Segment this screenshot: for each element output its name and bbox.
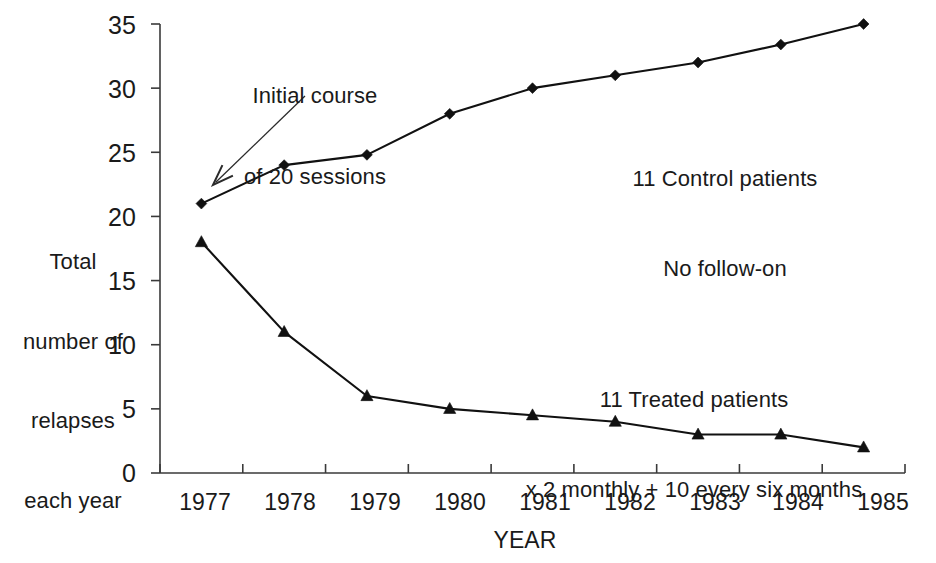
data-point-1982 (610, 70, 621, 81)
annotation-initial-course-line-2: of 20 sessions (200, 163, 430, 190)
series-label-treated-line-1: 11 Treated patients (494, 385, 894, 415)
y-tick-label-25: 25 (82, 139, 136, 168)
relapses-line-chart: 35 30 25 20 15 10 5 0 1977 1978 1979 198… (0, 0, 936, 563)
x-tick-label-1979: 1979 (330, 489, 420, 516)
series-label-control-line-1: 11 Control patients (600, 164, 850, 194)
y-axis-title: Total number of relapses each year (8, 196, 138, 563)
annotation-initial-course-line-1: Initial course (200, 82, 430, 109)
x-tick-label-1977: 1977 (160, 489, 250, 516)
data-point-1983 (693, 57, 704, 68)
y-axis-title-line-3: relapses (8, 408, 138, 435)
y-axis-ticks (151, 24, 160, 473)
y-tick-label-30: 30 (82, 75, 136, 104)
data-point-1980 (444, 108, 455, 119)
x-tick-label-1978: 1978 (245, 489, 335, 516)
y-tick-label-35: 35 (82, 11, 136, 40)
x-tick-label-1980: 1980 (415, 489, 505, 516)
y-axis-title-line-1: Total (8, 249, 138, 276)
data-point-1984 (775, 39, 786, 50)
series-label-treated: 11 Treated patients x 2 monthly + 10 eve… (494, 325, 894, 563)
data-point-1981 (527, 83, 538, 94)
y-axis-title-line-2: number of (8, 329, 138, 356)
y-axis-title-line-4: each year (8, 488, 138, 515)
data-point-1985 (858, 19, 869, 30)
annotation-initial-course: Initial course of 20 sessions (200, 28, 430, 244)
series-label-control: 11 Control patients No follow-on (600, 104, 850, 344)
data-point-1979 (361, 390, 373, 401)
series-label-control-line-2: No follow-on (600, 254, 850, 284)
series-label-treated-line-2: x 2 monthly + 10 every six months (494, 475, 894, 505)
